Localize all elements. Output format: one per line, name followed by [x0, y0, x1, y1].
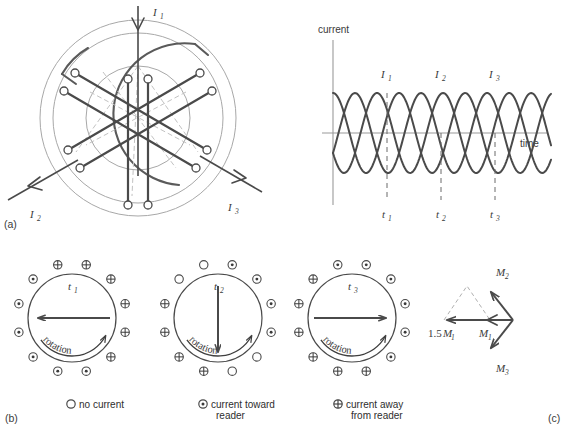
- current-toward-reader-dot-center: [202, 403, 205, 406]
- field-marker-away: [334, 367, 342, 375]
- label-I3-sub: 3: [234, 207, 239, 216]
- marker-dot: [389, 355, 392, 358]
- current-waveform-chart: current time I 1 I 2 I 3 t 1 t 2 t 3: [318, 24, 551, 223]
- marker-dot: [336, 263, 339, 266]
- marker-dot: [32, 355, 35, 358]
- field-marker-away: [309, 353, 317, 361]
- winding-bar-phase3-a: [75, 73, 207, 150]
- marker-dot: [404, 302, 407, 305]
- time-marker-lines: [387, 93, 495, 200]
- field-marker-none: [228, 367, 236, 375]
- field-marker-toward: [362, 261, 370, 269]
- legend-text-current-toward: current toward: [211, 399, 275, 410]
- field-marker-away: [295, 300, 303, 308]
- field-time-label-sub-t3: 3: [353, 286, 358, 295]
- motor-current-labels: I 1 I 2 I 3: [29, 6, 239, 223]
- legend-text-no-current: no current: [79, 399, 124, 410]
- chart-label-I2: I: [434, 68, 440, 80]
- label-I1-sub: 1: [160, 12, 164, 21]
- label-1p5M1-prefix: 1.5: [428, 327, 442, 339]
- marker-ring: [253, 353, 261, 361]
- field-time-label-sub-t2: 2: [220, 286, 224, 295]
- field-marker-toward: [401, 328, 409, 336]
- marker-ring: [200, 261, 208, 269]
- field-marker-away: [121, 300, 129, 308]
- winding-bar-phase2-b: [80, 91, 212, 168]
- motor-cross-section: I 1 I 2 I 3 (a): [4, 6, 262, 230]
- field-marker-away: [295, 328, 303, 336]
- legend-text-current-away-2: from reader: [351, 410, 403, 421]
- marker-dot: [270, 331, 273, 334]
- chart-label-t3-sub: 3: [495, 214, 500, 223]
- field-marker-toward: [267, 328, 275, 336]
- field-marker-away: [175, 353, 183, 361]
- marker-dot: [270, 302, 273, 305]
- legend: no current current toward reader current…: [67, 399, 404, 421]
- field-marker-toward: [228, 261, 236, 269]
- field-marker-toward: [29, 353, 37, 361]
- field-marker-toward: [387, 353, 395, 361]
- field-marker-toward: [29, 275, 37, 283]
- field-marker-away: [82, 261, 90, 269]
- chart-label-I1: I: [380, 68, 386, 80]
- rotation-label-t3: rotation: [321, 334, 353, 356]
- vector-construction-triangle: [444, 286, 490, 320]
- marker-dot: [17, 331, 20, 334]
- label-I1: I: [152, 6, 158, 18]
- marker-dot: [56, 370, 59, 373]
- marker-dot: [17, 302, 20, 305]
- chart-y-axis-label: current: [318, 24, 349, 35]
- marker-dot: [32, 278, 35, 281]
- marker-dot: [85, 370, 88, 373]
- field-marker-away: [121, 328, 129, 336]
- field-marker-none: [175, 275, 183, 283]
- field-time-label-sub-t1: 1: [74, 286, 78, 295]
- chart-label-t2: t: [436, 208, 440, 220]
- chart-time-labels: t 1 t 2 t 3: [382, 208, 500, 223]
- winding-bar-phase3-b: [64, 91, 196, 168]
- label-I2: I: [29, 208, 35, 220]
- field-diagram-t1: t1rotation: [15, 261, 130, 376]
- marker-dot: [389, 278, 392, 281]
- marker-ring: [175, 275, 183, 283]
- marker-dot: [365, 263, 368, 266]
- field-marker-toward: [54, 367, 62, 375]
- chart-label-I3-sub: 3: [495, 74, 500, 83]
- current-leads: [8, 6, 262, 200]
- chart-label-t1-sub: 1: [388, 214, 392, 223]
- field-time-label-t3: t: [348, 280, 352, 292]
- marker-dot: [404, 331, 407, 334]
- legend-text-current-toward-2: reader: [216, 410, 246, 421]
- field-diagram-t3: t3rotation: [295, 261, 410, 376]
- field-marker-toward: [387, 275, 395, 283]
- chart-label-I2-sub: 2: [442, 74, 446, 83]
- field-marker-toward: [253, 275, 261, 283]
- field-marker-away: [362, 367, 370, 375]
- chart-label-t2-sub: 2: [442, 214, 446, 223]
- label-M1-sub: 1: [488, 333, 492, 342]
- field-marker-toward: [334, 261, 342, 269]
- figure-root: I 1 I 2 I 3 (a) current time I 1 I 2: [0, 0, 564, 436]
- winding-bar-phase2-a: [68, 73, 200, 150]
- legend-text-current-away: current away: [346, 399, 403, 410]
- label-1p5M1-sub: 1: [451, 333, 455, 342]
- rotation-label-t1: rotation: [41, 334, 73, 356]
- field-marker-none: [253, 353, 261, 361]
- field-marker-away: [200, 367, 208, 375]
- field-marker-away: [107, 353, 115, 361]
- field-marker-away: [107, 275, 115, 283]
- lead-I2: [8, 160, 78, 200]
- marker-ring: [228, 367, 236, 375]
- field-marker-away: [54, 261, 62, 269]
- field-marker-away: [161, 328, 169, 336]
- label-M2-sub: 2: [505, 272, 509, 281]
- chart-label-t1: t: [382, 208, 386, 220]
- field-marker-toward: [267, 300, 275, 308]
- field-diagrams-group: t1rotationt2rotationt3rotation: [15, 261, 410, 376]
- lead-I3: [200, 156, 262, 192]
- chart-label-I1-sub: 1: [388, 74, 392, 83]
- chart-peak-labels: I 1 I 2 I 3: [380, 68, 500, 83]
- marker-dot: [255, 278, 258, 281]
- field-marker-away: [161, 300, 169, 308]
- panel-label-b: (b): [5, 412, 18, 424]
